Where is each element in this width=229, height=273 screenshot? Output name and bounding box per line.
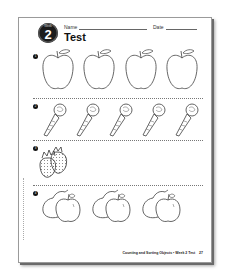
date-label: Date bbox=[153, 24, 164, 30]
week-badge-number: 2 bbox=[38, 27, 58, 42]
apple-icon bbox=[41, 47, 75, 93]
carrot-icon bbox=[74, 102, 100, 138]
pear-and-apple-icon bbox=[141, 188, 183, 224]
problem-2-row bbox=[37, 102, 203, 138]
apple-icon bbox=[82, 47, 116, 93]
page-footer: Counting and Sorting Objects • Week 2 Te… bbox=[123, 251, 203, 255]
footer-text: Counting and Sorting Objects • Week 2 Te… bbox=[123, 251, 196, 255]
apple-icon bbox=[124, 47, 158, 93]
pear-and-apple-icon bbox=[91, 188, 133, 224]
apple-icon bbox=[165, 47, 199, 93]
divider bbox=[33, 185, 203, 186]
worksheet-page: Week 2 Name Date Test 1 2 bbox=[18, 17, 212, 263]
page-title: Test bbox=[64, 31, 86, 43]
strawberries-icon bbox=[37, 144, 69, 180]
carrot-icon bbox=[107, 102, 133, 138]
copyright-margin-text bbox=[23, 178, 25, 240]
divider bbox=[33, 98, 203, 99]
divider bbox=[33, 140, 203, 141]
problem-4-row bbox=[37, 188, 187, 224]
pear-and-apple-icon bbox=[41, 188, 83, 224]
carrot-icon bbox=[41, 102, 67, 138]
problem-1-row bbox=[37, 47, 203, 93]
carrot-icon bbox=[173, 102, 199, 138]
carrot-icon bbox=[140, 102, 166, 138]
page-number: 27 bbox=[199, 251, 203, 255]
name-label: Name bbox=[64, 24, 77, 30]
name-field-line[interactable] bbox=[79, 29, 147, 30]
date-field-line[interactable] bbox=[166, 29, 197, 30]
problem-3-row bbox=[37, 144, 203, 180]
week-badge: Week 2 bbox=[38, 23, 58, 43]
